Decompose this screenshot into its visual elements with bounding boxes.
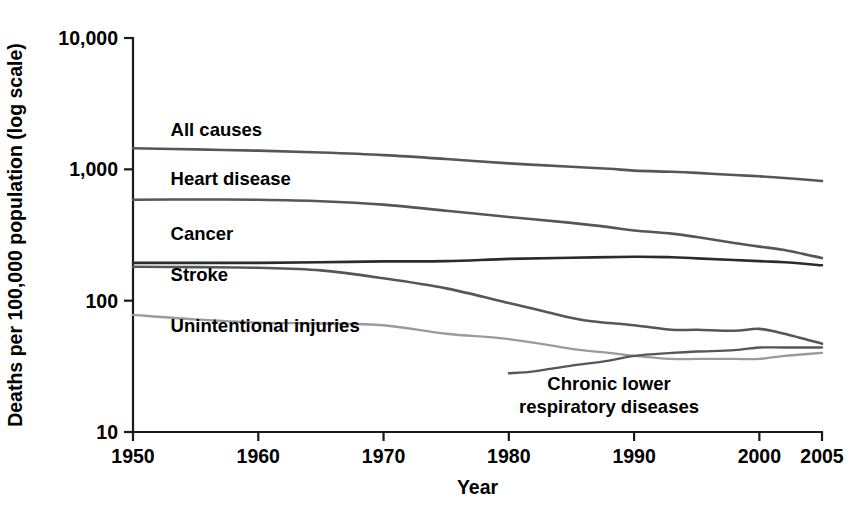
series-line-cancer — [133, 257, 822, 266]
series-label-heart-disease: Heart disease — [171, 168, 291, 189]
y-axis-title: Deaths per 100,000 population (log scale… — [4, 43, 26, 427]
x-tick-label-1980: 1980 — [487, 445, 531, 467]
x-axis-title: Year — [457, 476, 499, 498]
chart-container: 101001,00010,000195019601970198019902000… — [0, 0, 867, 510]
y-tick-label-100: 100 — [85, 290, 118, 312]
x-tick-label-1990: 1990 — [612, 445, 656, 467]
series-label-chronic-lower-respiratory-diseases: Chronic lowerrespiratory diseases — [519, 373, 699, 417]
series-label-stroke: Stroke — [171, 264, 229, 285]
y-tick-label-10,000: 10,000 — [58, 27, 118, 49]
x-tick-label-2005: 2005 — [800, 445, 844, 467]
chart-axes: 101001,00010,000195019601970198019902000… — [58, 27, 843, 467]
x-tick-label-1970: 1970 — [362, 445, 406, 467]
chart-axis-titles: YearDeaths per 100,000 population (log s… — [4, 43, 499, 498]
y-tick-label-1,000: 1,000 — [69, 158, 118, 180]
series-label-cancer: Cancer — [171, 223, 234, 244]
x-tick-label-2000: 2000 — [738, 445, 782, 467]
series-line-heart-disease — [133, 199, 822, 258]
y-tick-label-10: 10 — [96, 421, 118, 443]
x-tick-label-1950: 1950 — [111, 445, 155, 467]
series-label-unintentional-injuries: Unintentional injuries — [171, 315, 360, 336]
x-tick-label-1960: 1960 — [237, 445, 281, 467]
series-line-chronic-lower-respiratory-diseases — [509, 347, 822, 373]
series-label-all-causes: All causes — [171, 119, 263, 140]
line-chart: 101001,00010,000195019601970198019902000… — [0, 0, 867, 510]
